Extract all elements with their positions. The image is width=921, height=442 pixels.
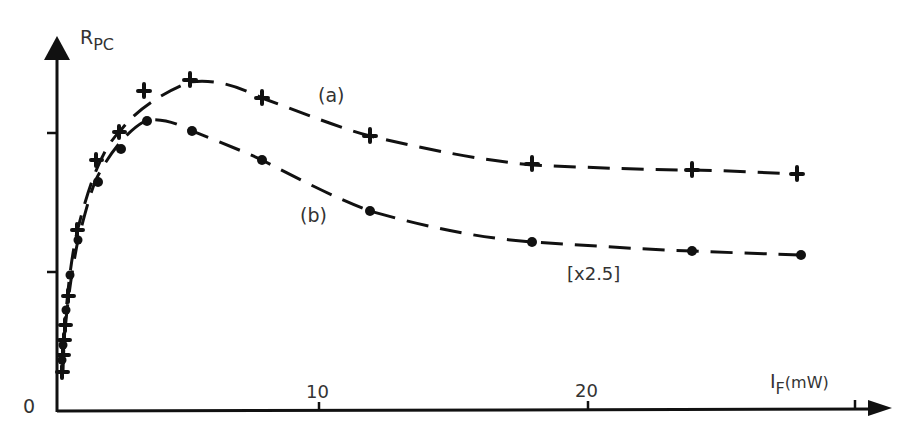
curve-b-line [63,120,800,360]
x-tick-label-20: 20 [575,380,598,401]
curve-b-markers [58,116,807,365]
y-axis-label: RPC [80,26,114,48]
x-axis [57,400,892,416]
x-axis-label-main: I [770,370,776,392]
curve-a-label: (a) [318,84,344,106]
x-tick-label-10: 10 [306,381,329,402]
y-axis-arrow-icon [44,36,70,60]
curve-a-markers [57,73,803,378]
curve-b-label: (b) [300,204,327,226]
x-axis-label: IF(mW) [770,370,829,392]
y-axis-label-main: R [80,26,93,48]
x-axis-arrow-icon [868,400,892,416]
y-axis-label-sub: PC [93,35,114,54]
scale-note: [x2.5] [567,263,620,284]
x-axis-unit: (mW) [785,373,829,392]
x-axis-label-sub: F [776,379,785,398]
origin-label: 0 [23,395,35,417]
curve-a-line [63,81,797,372]
